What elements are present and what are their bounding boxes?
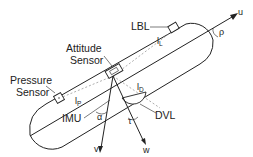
lbl-sensor-box [150,22,179,33]
l-D-sub: D [139,86,144,93]
alpha-symbol: α [97,113,102,122]
pressure-sensor-label-line2: Sensor [16,87,49,98]
attitude-sensor-label-line1: Attitude [66,43,102,54]
imu-label: IMU [62,113,81,124]
v-symbol: v [94,145,99,154]
l-P-sub: P [77,100,81,107]
rho-symbol: ρ [219,28,224,37]
dvl-label: DVL [155,110,175,121]
w-symbol: w [143,146,150,155]
attitude-sensor-label-line2: Sensor [70,55,103,66]
vehicle-hull [30,23,213,149]
u-symbol: u [238,8,243,17]
dvl-sensor-dome [122,92,156,113]
u-arrowhead-icon [230,13,238,20]
lbl-label: LBL [131,21,150,32]
rho-arc [213,28,218,37]
l-L-sub: L [159,40,163,47]
l-P-label: lP [75,97,81,108]
tau-symbol: τ [128,117,132,126]
l-D-label: lD [137,83,144,94]
w-arrowhead-icon [141,138,146,145]
pressure-sensor-label-line1: Pressure [10,75,52,86]
l-L-label: lL [157,37,163,48]
attitude-sensor-box [104,56,123,78]
